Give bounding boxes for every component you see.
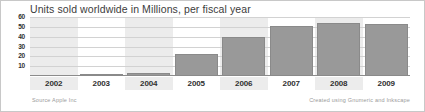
gridline bbox=[30, 17, 410, 18]
bar bbox=[365, 24, 408, 76]
y-axis-tick-label: 20 bbox=[18, 53, 25, 60]
x-axis-tick-label: 2009 bbox=[363, 79, 411, 88]
x-axis-tick-label: 2005 bbox=[173, 79, 221, 88]
x-axis-tick-label: 2007 bbox=[268, 79, 316, 88]
source-note: Source Apple Inc bbox=[32, 97, 77, 103]
y-axis-tick-label: 50 bbox=[18, 24, 25, 31]
y-axis-tick-label: 30 bbox=[18, 43, 25, 50]
credit-note: Created using Gnumeric and Inkscape bbox=[309, 97, 410, 103]
bar bbox=[80, 74, 123, 76]
x-axis-tick-label: 2006 bbox=[220, 79, 268, 88]
x-axis-tick-label: 2008 bbox=[315, 79, 363, 88]
bar bbox=[270, 26, 313, 76]
y-axis-tick-label: 10 bbox=[18, 63, 25, 70]
x-axis-tick-label: 2002 bbox=[30, 79, 78, 88]
x-axis-tick-label: 2003 bbox=[78, 79, 126, 88]
x-axis-tick-label: 2004 bbox=[125, 79, 173, 88]
bar bbox=[222, 37, 265, 76]
x-axis: 20022003200420052006200720082009 bbox=[30, 77, 410, 90]
bar bbox=[127, 73, 170, 76]
plot-area bbox=[30, 17, 410, 76]
bar bbox=[175, 54, 218, 76]
bar bbox=[317, 23, 360, 76]
y-axis: 605040302010 bbox=[1, 17, 28, 76]
bar-chart-figure: Units sold worldwide in Millions, per fi… bbox=[0, 0, 425, 112]
y-axis-tick-label: 40 bbox=[18, 33, 25, 40]
y-axis-tick-label: 60 bbox=[18, 14, 25, 21]
chart-title: Units sold worldwide in Millions, per fi… bbox=[30, 3, 251, 15]
